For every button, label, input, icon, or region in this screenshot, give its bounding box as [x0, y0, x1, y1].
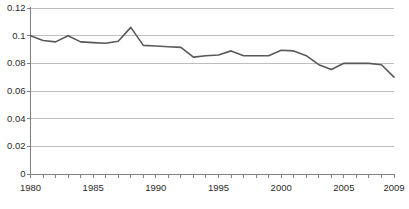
y-axis-ticks [27, 8, 31, 174]
x-axis-tick-label: 1980 [11, 182, 51, 193]
y-axis-tick-label: 0.1 [12, 30, 25, 41]
x-axis-tick-label: 1990 [136, 182, 176, 193]
x-axis-tick-label: 2000 [261, 182, 301, 193]
gridlines [31, 8, 395, 146]
y-axis-tick-label: 0.04 [7, 113, 26, 124]
x-axis-tick-label: 1985 [73, 182, 113, 193]
y-axis-tick-label: 0.02 [7, 140, 26, 151]
x-axis-ticks [31, 174, 395, 178]
x-axis-tick-label: 2009 [374, 182, 409, 193]
x-axis-tick-label: 2005 [324, 182, 364, 193]
y-axis-tick-label: 0.06 [7, 85, 26, 96]
y-axis-tick-label: 0 [20, 168, 25, 179]
y-axis-tick-label: 0.12 [7, 2, 26, 13]
y-axis-tick-label: 0.08 [7, 57, 26, 68]
x-axis-tick-label: 1995 [199, 182, 239, 193]
data-series-line [31, 27, 395, 77]
